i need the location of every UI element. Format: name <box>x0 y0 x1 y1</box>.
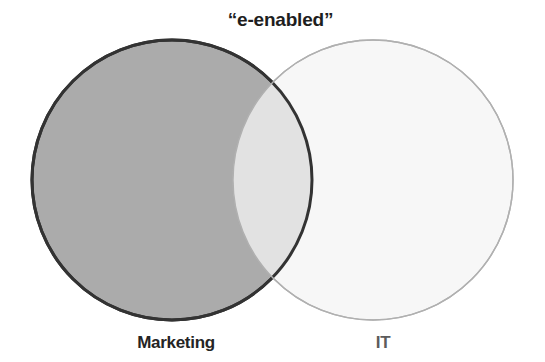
diagram-title-text: “e-enabled” <box>228 9 334 30</box>
venn-label-it: IT <box>323 334 443 351</box>
venn-diagram: “e-enabled” Marketing IT <box>0 0 545 362</box>
venn-label-marketing: Marketing <box>96 334 256 351</box>
venn-diagram-canvas <box>0 0 545 362</box>
diagram-title: “e-enabled” <box>0 10 545 29</box>
